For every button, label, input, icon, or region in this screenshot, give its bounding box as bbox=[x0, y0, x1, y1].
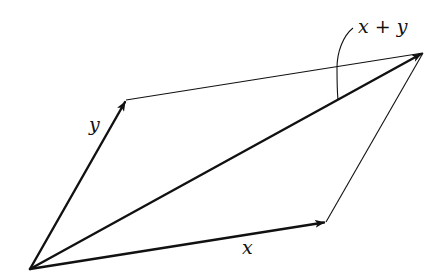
vector-x-label: x bbox=[242, 236, 253, 258]
vector-sum-label: x + y bbox=[358, 15, 408, 37]
vector-addition-diagram: y x x + y bbox=[0, 0, 443, 280]
vector-y-label: y bbox=[88, 113, 100, 135]
vector-sum-arrow bbox=[30, 54, 421, 269]
